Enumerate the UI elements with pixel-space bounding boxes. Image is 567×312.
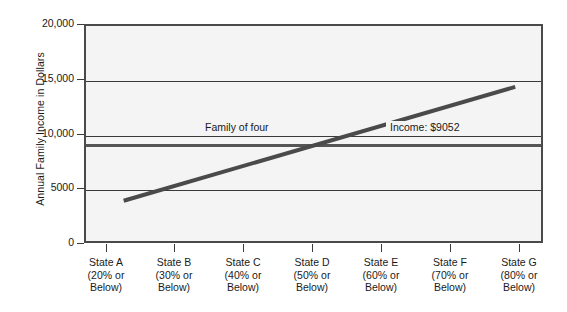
plot-area: Family of four Income: $9052 <box>84 24 543 243</box>
x-tickmark-state-a <box>106 244 107 252</box>
x-axis-label-state-g-line3: Below) <box>476 281 562 294</box>
y-tick-label-5000: 5000 <box>16 182 74 193</box>
x-axis-label-state-g-line2: (80% or <box>476 269 562 282</box>
x-tickmark-state-e <box>381 244 382 252</box>
y-tickmark-15000 <box>77 79 84 80</box>
income-threshold-chart: Annual Family Income in Dollars 20,000 1… <box>0 0 567 312</box>
annotation-family-of-four: Family of four <box>201 121 273 133</box>
y-tickmark-0 <box>77 243 84 244</box>
y-tick-label-15000: 15,000 <box>16 73 74 84</box>
y-tickmark-20000 <box>77 24 84 25</box>
x-tickmark-state-d <box>312 244 313 252</box>
y-tick-label-20000: 20,000 <box>16 18 74 29</box>
y-tickmark-10000 <box>77 134 84 135</box>
income-trend-line <box>86 26 541 241</box>
x-axis-label-state-g-line1: State G <box>476 256 562 269</box>
x-axis-label-state-g: State G (80% or Below) <box>476 256 562 294</box>
x-tickmark-state-b <box>174 244 175 252</box>
x-tickmark-state-f <box>450 244 451 252</box>
x-tickmark-state-c <box>243 244 244 252</box>
y-tickmark-5000 <box>77 188 84 189</box>
annotation-income-value: Income: $9052 <box>386 121 463 133</box>
x-tickmark-state-g <box>519 244 520 252</box>
y-tick-label-0: 0 <box>16 237 74 248</box>
y-tick-label-10000: 10,000 <box>16 128 74 139</box>
